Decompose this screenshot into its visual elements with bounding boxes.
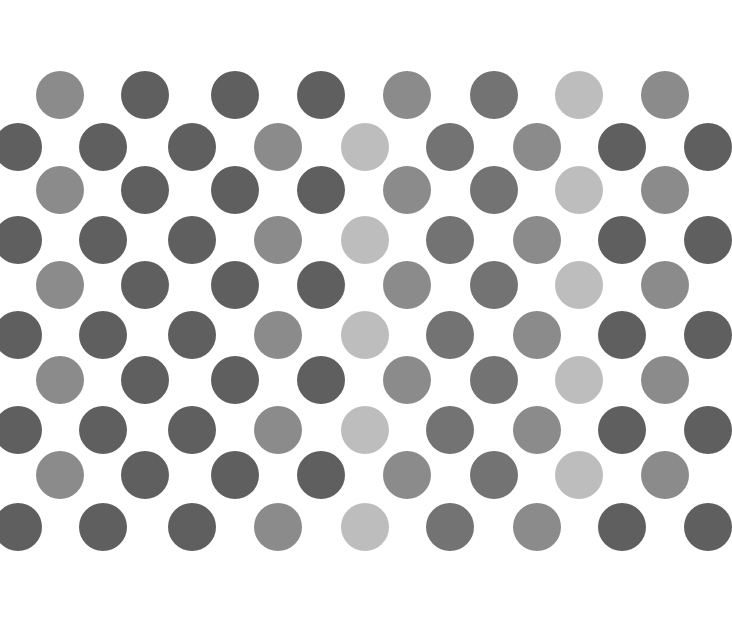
- circle-dark: [211, 71, 259, 119]
- circle-medium: [254, 406, 302, 454]
- circle-medium: [513, 216, 561, 264]
- circle-dark: [297, 166, 345, 214]
- circle-dark: [0, 123, 42, 171]
- circle-dark: [211, 356, 259, 404]
- circle-dark: [684, 503, 732, 551]
- circle-medium: [641, 166, 689, 214]
- circle-dark: [168, 311, 216, 359]
- circle-light: [341, 406, 389, 454]
- circle-medium-dark: [470, 356, 518, 404]
- circle-dark: [598, 123, 646, 171]
- circle-dark: [297, 71, 345, 119]
- circle-light: [555, 451, 603, 499]
- circle-dark: [79, 406, 127, 454]
- circle-medium: [36, 261, 84, 309]
- circle-dark: [0, 216, 42, 264]
- circle-medium: [36, 356, 84, 404]
- circle-medium: [513, 123, 561, 171]
- circle-dark: [121, 451, 169, 499]
- circle-medium: [383, 451, 431, 499]
- circle-dark: [121, 71, 169, 119]
- circle-dark: [684, 406, 732, 454]
- circle-medium: [383, 261, 431, 309]
- circle-dark: [0, 311, 42, 359]
- circle-medium: [36, 71, 84, 119]
- circle-light: [341, 503, 389, 551]
- circle-dark: [684, 123, 732, 171]
- circle-dark: [168, 406, 216, 454]
- circle-dark: [684, 311, 732, 359]
- circle-light: [341, 311, 389, 359]
- circle-medium: [36, 451, 84, 499]
- circle-dark: [684, 216, 732, 264]
- circle-medium-dark: [426, 123, 474, 171]
- circle-light: [555, 71, 603, 119]
- circle-dark: [79, 216, 127, 264]
- circle-dark: [297, 451, 345, 499]
- circle-medium-dark: [426, 311, 474, 359]
- circle-medium: [383, 71, 431, 119]
- circle-medium: [641, 356, 689, 404]
- circle-medium: [513, 406, 561, 454]
- circle-medium: [383, 166, 431, 214]
- circle-medium: [641, 451, 689, 499]
- circle-light: [341, 123, 389, 171]
- circle-dark: [121, 166, 169, 214]
- circle-dark: [598, 216, 646, 264]
- circle-medium: [254, 311, 302, 359]
- circle-medium: [513, 503, 561, 551]
- circle-dark: [211, 261, 259, 309]
- circle-dark: [79, 503, 127, 551]
- circle-medium: [383, 356, 431, 404]
- circle-dark: [0, 406, 42, 454]
- circle-medium-dark: [470, 261, 518, 309]
- circle-dark: [0, 503, 42, 551]
- circle-medium-dark: [426, 216, 474, 264]
- circle-medium-dark: [470, 451, 518, 499]
- circle-medium-dark: [470, 71, 518, 119]
- circle-dark: [598, 503, 646, 551]
- circle-dark: [168, 123, 216, 171]
- circle-dark: [211, 451, 259, 499]
- circle-medium-dark: [470, 166, 518, 214]
- circle-dark: [79, 311, 127, 359]
- circle-medium-dark: [426, 503, 474, 551]
- circle-light: [341, 216, 389, 264]
- circle-medium: [36, 166, 84, 214]
- circle-dark: [598, 406, 646, 454]
- circle-dark: [297, 356, 345, 404]
- circle-light: [555, 261, 603, 309]
- circle-light: [555, 356, 603, 404]
- circle-medium: [513, 311, 561, 359]
- circle-dark: [211, 166, 259, 214]
- circle-dark: [121, 356, 169, 404]
- circle-medium: [254, 503, 302, 551]
- circle-medium: [641, 71, 689, 119]
- circle-medium: [254, 123, 302, 171]
- circle-medium: [641, 261, 689, 309]
- circle-dark: [79, 123, 127, 171]
- circle-dark: [598, 311, 646, 359]
- circle-dark: [168, 503, 216, 551]
- circle-medium: [254, 216, 302, 264]
- circle-light: [555, 166, 603, 214]
- circle-medium-dark: [426, 406, 474, 454]
- circle-dark: [168, 216, 216, 264]
- circle-dark: [297, 261, 345, 309]
- circle-dark: [121, 261, 169, 309]
